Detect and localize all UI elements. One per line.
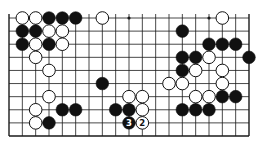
- white-stone: [43, 64, 56, 77]
- white-stone: [189, 90, 202, 103]
- white-stone: [16, 12, 29, 25]
- black-stone: [16, 25, 29, 38]
- black-stone: [216, 38, 229, 51]
- white-stone: [29, 38, 42, 51]
- black-stone: [96, 77, 109, 90]
- black-stone: [216, 90, 229, 103]
- black-stone: [56, 12, 69, 25]
- white-stone: 2: [136, 117, 149, 130]
- black-stone: 3: [123, 117, 136, 130]
- white-stone: [203, 90, 216, 103]
- black-stone: [203, 103, 216, 116]
- black-stone: [69, 12, 82, 25]
- move-number-label: 2: [139, 118, 145, 128]
- white-stone: [216, 77, 229, 90]
- black-stone: [189, 103, 202, 116]
- white-stone: [216, 12, 229, 25]
- black-stone: [176, 51, 189, 64]
- black-stone: [203, 38, 216, 51]
- white-stone: [43, 25, 56, 38]
- black-stone: [109, 103, 122, 116]
- white-stone: [56, 38, 69, 51]
- black-stone: [176, 64, 189, 77]
- white-stone: [176, 77, 189, 90]
- black-stone: [16, 38, 29, 51]
- go-board: 32: [0, 0, 269, 151]
- black-stone: [229, 38, 242, 51]
- white-stone: [136, 103, 149, 116]
- black-stone: [123, 103, 136, 116]
- white-stone: [163, 77, 176, 90]
- black-stone: [176, 25, 189, 38]
- black-stone: [243, 51, 256, 64]
- white-stone: [123, 90, 136, 103]
- black-stone: [43, 12, 56, 25]
- black-stone: [43, 38, 56, 51]
- black-stone: [229, 90, 242, 103]
- black-stone: [189, 51, 202, 64]
- white-stone: [29, 103, 42, 116]
- white-stone: [56, 25, 69, 38]
- white-stone: [203, 51, 216, 64]
- black-stone: [56, 103, 69, 116]
- white-stone: [29, 117, 42, 130]
- white-stone: [189, 64, 202, 77]
- star-point: [207, 16, 210, 19]
- black-stone: [43, 117, 56, 130]
- black-stone: [29, 25, 42, 38]
- white-stone: [136, 90, 149, 103]
- white-stone: [216, 64, 229, 77]
- white-stone: [29, 12, 42, 25]
- black-stone: [69, 103, 82, 116]
- move-number-label: 3: [126, 118, 132, 128]
- black-stone: [176, 103, 189, 116]
- white-stone: [96, 12, 109, 25]
- white-stone: [29, 51, 42, 64]
- white-stone: [43, 90, 56, 103]
- star-point: [127, 16, 130, 19]
